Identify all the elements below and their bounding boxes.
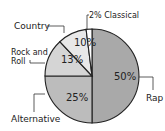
callout-rap: Rap	[146, 93, 164, 103]
pie-chart: 50%25%13%10% Country Rock and Roll Alter…	[0, 0, 165, 131]
slice-label-rock-and-roll: 13%	[61, 54, 83, 65]
leader-line-rock-and-roll	[30, 60, 45, 63]
callout-country: Country	[14, 21, 50, 31]
slice-label-country: 10%	[74, 37, 96, 48]
slice-label-rap: 50%	[114, 71, 136, 82]
callout-rock-and-roll-line2: Roll	[11, 57, 26, 66]
callout-rock-and-roll-line1: Rock and	[11, 48, 48, 57]
slice-label-alternative: 25%	[66, 92, 88, 103]
leader-line-alternative	[34, 94, 45, 112]
callout-alternative: Alternative	[11, 114, 61, 124]
leader-line-rap	[139, 77, 153, 90]
callout-classical: 2% Classical	[89, 11, 139, 20]
